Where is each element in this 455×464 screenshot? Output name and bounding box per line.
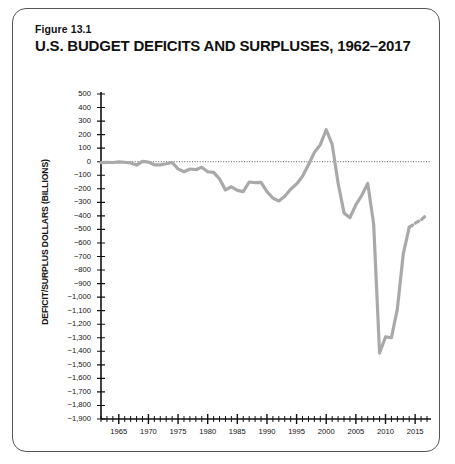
line-chart-canvas [13,9,440,452]
chart-series-group [101,130,427,353]
series-line-dashed [409,215,427,228]
figure-card: Figure 13.1 U.S. BUDGET DEFICITS AND SUR… [12,8,440,452]
chart-axes [97,92,431,424]
chart-plot-area: DEFICIT/SURPLUS DOLLARS (BILLIONS) 50040… [13,9,440,452]
series-line-solid [101,130,409,353]
